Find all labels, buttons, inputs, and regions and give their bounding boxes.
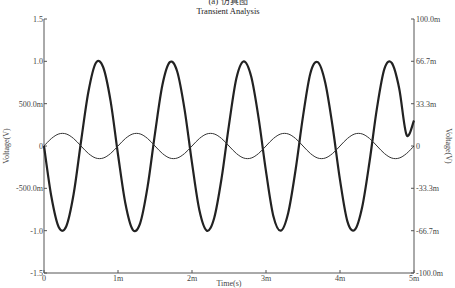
y-left-tick-label: -500.0m	[16, 184, 44, 193]
y-right-tick-label: 100.0m	[416, 15, 441, 24]
y-axis-right-label: Voltage(V)	[444, 128, 453, 164]
y-right-tick-label: 33.3m	[416, 100, 437, 109]
y-left-tick-label: 1.5	[33, 15, 43, 24]
transient-analysis-chart: (a) 仿真图 Transient Analysis 01m2m3m4m5m1.…	[0, 0, 455, 288]
y-axis-left-label: Voltage(V)	[2, 128, 11, 164]
x-axis-label: Time(s)	[216, 279, 241, 288]
chart-title: Transient Analysis	[196, 6, 259, 16]
x-tick-label: 2m	[187, 274, 198, 283]
y-right-tick-label: -100.0m	[416, 269, 444, 278]
y-right-tick-label: -33.3m	[416, 184, 440, 193]
y-left-tick-label: 500.0m	[19, 100, 44, 109]
x-tick-label: 4m	[335, 274, 346, 283]
y-left-tick-label: -1.0	[30, 227, 43, 236]
y-left-tick-label: 1.0	[33, 57, 43, 66]
y-right-tick-label: -66.7m	[416, 227, 440, 236]
y-right-tick-label: 0	[416, 142, 420, 151]
x-tick-label: 3m	[261, 274, 272, 283]
small-sine-trace	[44, 133, 414, 158]
x-tick-label: 1m	[113, 274, 124, 283]
y-left-tick-label: 0	[39, 142, 43, 151]
y-right-tick-label: 66.7m	[416, 57, 437, 66]
series-group	[44, 61, 414, 231]
y-left-tick-label: -1.5	[30, 269, 43, 278]
